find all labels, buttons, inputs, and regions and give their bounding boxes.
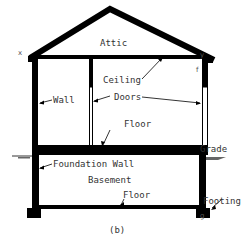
ceiling-label: Ceiling [103, 75, 141, 85]
grade-right-symbol [206, 157, 226, 160]
left-foundation-wall [32, 150, 39, 212]
doors-label: Doors [114, 92, 141, 102]
house-cross-section-diagram: Attic Ceiling Wall Doors Floor Grade Fou… [0, 0, 242, 248]
left-wall [32, 58, 38, 148]
roof [28, 9, 214, 63]
right-wall-door [202, 58, 208, 147]
figure-caption: (b) [109, 225, 125, 235]
left-footing [27, 208, 41, 218]
footing-label: Footing [203, 196, 241, 206]
grade-left-symbol [12, 156, 32, 159]
foundation-wall-label: Foundation Wall [53, 159, 134, 169]
wall-label: Wall [53, 95, 75, 105]
floor-lower-label: Floor [123, 190, 151, 200]
floor-upper-label: Floor [124, 119, 152, 129]
attic-label: Attic [100, 38, 127, 48]
point-f-marker: f [196, 66, 199, 74]
main-floor-slab [32, 145, 208, 155]
ceiling-beam [32, 55, 208, 59]
interior-door [89, 58, 93, 147]
point-y-marker: y [200, 51, 204, 59]
point-g-marker: g [200, 212, 204, 220]
basement-floor [32, 205, 206, 209]
basement-label: Basement [88, 175, 131, 185]
point-x-marker: x [18, 49, 22, 57]
grade-label: Grade [200, 144, 227, 154]
